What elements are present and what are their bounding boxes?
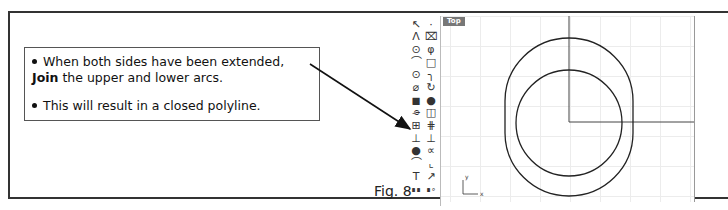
callout-arrow (0, 0, 705, 210)
